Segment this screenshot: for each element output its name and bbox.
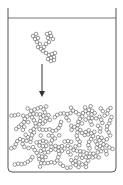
sediment-particle (83, 106, 87, 110)
sediment-particle (101, 121, 105, 125)
sediment-particle (58, 152, 62, 156)
sediment-particle (21, 114, 25, 118)
sediment-particle (41, 128, 45, 132)
sediment-particle (91, 156, 95, 160)
sediment-particle (13, 163, 17, 167)
sediment-particle (99, 107, 103, 111)
sediment-particle (26, 107, 30, 111)
sediment-particle (70, 128, 74, 132)
sediment-particle (47, 113, 51, 117)
sediment-particle (110, 115, 114, 119)
sediment-particle (33, 108, 37, 112)
cluster-particle (47, 40, 51, 44)
sediment-particle (37, 157, 41, 161)
sediment-particle (105, 128, 109, 132)
sediment-particle (14, 127, 18, 131)
sediment-particle (49, 148, 53, 152)
sediment-particle (84, 118, 88, 122)
sediment-particle (66, 144, 70, 148)
sediment-particle (53, 116, 57, 120)
sediment-particle (84, 162, 88, 166)
cluster-particle (51, 37, 55, 41)
sediment-particle (29, 129, 33, 133)
sediment-particle (21, 128, 25, 132)
sediment-particle (87, 140, 91, 144)
sediment-particle (103, 114, 107, 118)
sediment-particle (44, 105, 48, 109)
sediment-particle (44, 144, 48, 148)
sediment-particle (81, 115, 85, 119)
sediment-particle (69, 111, 73, 115)
sediment-particle (66, 139, 70, 143)
sediment-particle (65, 116, 69, 120)
sediment-particle (80, 122, 84, 126)
diagram-canvas (0, 0, 123, 185)
sediment-particle (51, 129, 55, 133)
sediment-particle (105, 152, 109, 156)
sediment-particle (38, 140, 42, 144)
sediment-particle (88, 147, 92, 151)
sediment-particle (29, 140, 33, 144)
sediment-particle (96, 151, 100, 155)
sediment-particle (20, 162, 24, 166)
sediment-particle (94, 140, 98, 144)
sediment-particle (54, 144, 58, 148)
background (0, 0, 123, 185)
sediment-particle (98, 130, 102, 134)
sediment-particle (61, 164, 65, 168)
sediment-particle (47, 134, 51, 138)
sediment-particle (78, 140, 82, 144)
sediment-particle (27, 146, 31, 150)
sediment-particle (78, 153, 82, 157)
sediment-particle (62, 112, 66, 116)
sediment-particle (44, 128, 48, 132)
sediment-particle (96, 124, 100, 128)
sediment-particle (25, 139, 29, 143)
sediment-particle (78, 143, 82, 147)
sediment-particle (100, 136, 104, 140)
sediment-particle (78, 150, 82, 154)
sediment-particle (76, 123, 80, 127)
sediment-particle (32, 131, 36, 135)
sediment-particle (39, 134, 43, 138)
sediment-particle (89, 120, 93, 124)
sediment-particle (44, 155, 48, 159)
cluster-particle (36, 36, 40, 40)
sediment-particle (74, 145, 78, 149)
sediment-particle (90, 116, 94, 120)
sediment-particle (97, 156, 101, 160)
sediment-particle (38, 165, 42, 169)
sediment-particle (13, 114, 17, 118)
cluster-particle (45, 32, 49, 36)
sediment-particle (80, 163, 84, 167)
sediment-particle (23, 162, 27, 166)
sediment-particle (57, 134, 61, 138)
sediment-particle (69, 153, 73, 157)
sediment-particle (65, 112, 69, 116)
sediment-particle (87, 112, 91, 116)
sediment-particle (38, 127, 42, 131)
sediment-particle (24, 133, 28, 137)
sediment-particle (74, 159, 78, 163)
sediment-particle (69, 106, 73, 110)
sediment-particle (87, 155, 91, 159)
sediment-particle (93, 130, 97, 134)
sediment-particle (48, 118, 52, 122)
sediment-particle (23, 145, 27, 149)
sediment-particle (63, 140, 67, 144)
cluster-particle (53, 51, 57, 55)
sediment-particle (34, 125, 38, 129)
sediment-particle (65, 166, 69, 170)
sediment-particle (89, 104, 93, 108)
sediment-particle (51, 134, 55, 138)
sediment-particle (40, 155, 44, 159)
sediment-particle (38, 144, 42, 148)
sediment-particle (42, 148, 46, 152)
sediment-particle (41, 144, 45, 148)
sediment-particle (38, 113, 42, 117)
sediment-particle (94, 117, 98, 121)
cluster-particle (52, 58, 56, 62)
sediment-particle (95, 146, 99, 150)
sediment-particle (105, 137, 109, 141)
sediment-particle (69, 166, 73, 170)
